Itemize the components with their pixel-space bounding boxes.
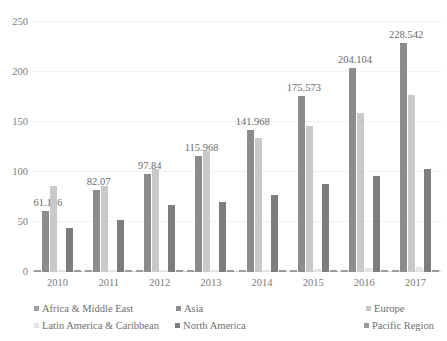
bar — [357, 113, 364, 272]
bar — [381, 270, 388, 272]
legend-item-label: Asia — [184, 303, 203, 315]
y-axis: 050100150200250 — [0, 22, 32, 272]
bar — [373, 176, 380, 273]
bar — [136, 270, 143, 272]
y-axis-tick-label: 150 — [12, 117, 28, 127]
bar-data-label: 115.968 — [185, 142, 219, 153]
bar — [322, 184, 329, 272]
y-axis-tick-label: 0 — [23, 267, 28, 277]
bar — [255, 138, 262, 272]
bar — [58, 270, 65, 272]
x-axis: 20102011201220132014201520162017 — [32, 274, 441, 294]
legend-item[interactable]: Latin America & Caribbean — [34, 320, 175, 332]
legend-swatch-icon — [176, 306, 181, 311]
bar — [408, 95, 415, 273]
bar — [34, 270, 41, 272]
x-axis-tick-label: 2017 — [390, 274, 441, 294]
x-axis-tick-label: 2013 — [185, 274, 236, 294]
bar — [416, 267, 423, 272]
legend-swatch-icon — [364, 323, 369, 328]
bar: 204.104 — [349, 68, 356, 272]
bar-cluster: 97.84 — [134, 22, 185, 272]
legend-item[interactable]: Pacific Region — [364, 320, 434, 332]
bar-cluster: 141.968 — [237, 22, 288, 272]
legend-swatch-icon — [366, 306, 371, 311]
bar — [341, 270, 348, 272]
bar — [101, 186, 108, 273]
y-axis-tick-label: 100 — [12, 167, 28, 177]
x-axis-tick-label: 2014 — [237, 274, 288, 294]
bar — [219, 202, 226, 272]
bar — [109, 270, 116, 272]
bar — [85, 270, 92, 272]
bar-cluster: 61.106 — [32, 22, 83, 272]
bar — [117, 220, 124, 272]
bar-cluster: 204.104 — [339, 22, 390, 272]
bar — [263, 270, 270, 272]
bar — [306, 126, 313, 273]
bar: 82.07 — [93, 190, 100, 272]
legend-swatch-icon — [34, 306, 39, 311]
y-axis-tick-label: 50 — [18, 217, 29, 227]
bar-data-label: 228.542 — [389, 29, 423, 40]
legend-row: Africa & Middle EastAsiaEurope — [34, 300, 434, 317]
bar — [160, 270, 167, 272]
bar — [187, 270, 194, 272]
chart-legend: Africa & Middle EastAsiaEurope Latin Ame… — [34, 300, 434, 338]
bar — [168, 205, 175, 272]
x-axis-tick-label: 2016 — [339, 274, 390, 294]
bar — [152, 169, 159, 272]
bar: 175.573 — [298, 96, 305, 272]
bar-data-label: 204.104 — [338, 54, 372, 65]
bar: 97.84 — [144, 174, 151, 272]
legend-swatch-icon — [34, 323, 39, 328]
legend-item-label: Latin America & Caribbean — [42, 320, 159, 332]
bar — [50, 186, 57, 272]
y-axis-tick-label: 250 — [12, 17, 28, 27]
bar — [239, 270, 246, 272]
bar — [227, 270, 234, 272]
x-axis-tick-label: 2011 — [83, 274, 134, 294]
bar — [66, 228, 73, 272]
bar — [271, 195, 278, 272]
legend-item-label: Africa & Middle East — [42, 303, 133, 315]
y-axis-tick-label: 200 — [12, 67, 28, 77]
legend-item[interactable]: Asia — [176, 303, 366, 315]
legend-row: Latin America & CaribbeanNorth AmericaPa… — [34, 317, 434, 334]
legend-item[interactable]: North America — [175, 320, 364, 332]
legend-item-label: North America — [183, 320, 246, 332]
bar — [330, 270, 337, 272]
bar — [365, 268, 372, 273]
legend-item-label: Pacific Region — [372, 320, 434, 332]
bar-data-label: 141.968 — [236, 116, 270, 127]
bar — [279, 270, 286, 272]
bar — [424, 169, 431, 273]
bar-clusters: 61.10682.0797.84115.968141.968175.573204… — [32, 22, 441, 272]
bar — [74, 270, 81, 272]
bar — [314, 269, 321, 273]
bar-cluster: 82.07 — [83, 22, 134, 272]
bar-cluster: 175.573 — [288, 22, 339, 272]
legend-swatch-icon — [175, 323, 180, 328]
bar — [432, 270, 439, 272]
bar-chart: 050100150200250 61.10682.0797.84115.9681… — [0, 0, 447, 341]
bar-cluster: 115.968 — [185, 22, 236, 272]
bar-data-label: 175.573 — [287, 82, 321, 93]
bar — [290, 270, 297, 272]
bar — [203, 151, 210, 272]
bar — [211, 270, 218, 272]
bar — [176, 270, 183, 272]
x-axis-tick-label: 2010 — [32, 274, 83, 294]
legend-item-label: Europe — [374, 303, 404, 315]
legend-item[interactable]: Europe — [366, 303, 404, 315]
bar-cluster: 228.542 — [390, 22, 441, 272]
bar: 141.968 — [247, 130, 254, 272]
bar: 61.106 — [42, 211, 49, 272]
x-axis-tick-label: 2015 — [288, 274, 339, 294]
legend-item[interactable]: Africa & Middle East — [34, 303, 176, 315]
x-axis-tick-label: 2012 — [134, 274, 185, 294]
bar — [125, 270, 132, 272]
bar: 115.968 — [195, 156, 202, 272]
bar — [392, 270, 399, 272]
bar-data-label: 61.106 — [33, 197, 62, 208]
